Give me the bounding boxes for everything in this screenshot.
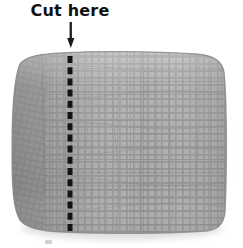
cut-here-label: Cut here [0, 1, 140, 21]
illustration-canvas: Cut here [0, 0, 243, 248]
image-speck [45, 240, 52, 244]
fabric-swatch [0, 42, 243, 248]
cut-line [67, 55, 73, 235]
